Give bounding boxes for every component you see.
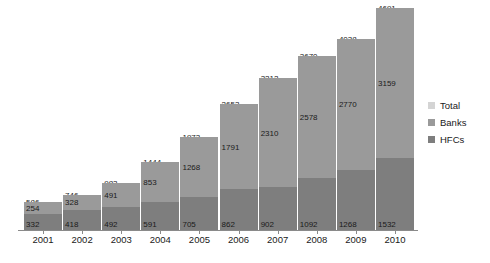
bar-value-hfcs: 862	[222, 220, 235, 229]
x-axis-tick-labels: 2001200220032004200520062007200820092010	[24, 234, 414, 245]
bar-column[interactable]: 19731268705	[180, 8, 218, 230]
bar-column[interactable]: 1444853591	[141, 8, 179, 230]
x-tick-label: 2003	[102, 234, 140, 245]
x-tick-mark	[278, 230, 279, 234]
x-tick-mark	[43, 230, 44, 234]
legend-item[interactable]: HFCs	[428, 131, 466, 148]
bar-segment-hfcs: 1268	[337, 170, 375, 230]
bar-segment-banks: 1268	[180, 137, 218, 197]
bar-segment-banks: 2578	[298, 56, 336, 178]
bar-value-hfcs: 902	[261, 220, 274, 229]
x-tick-mark	[82, 230, 83, 234]
bar-value-hfcs: 705	[182, 220, 195, 229]
x-tick-mark	[395, 230, 396, 234]
legend-label: Total	[440, 100, 460, 111]
bar-value-banks: 1268	[182, 162, 200, 171]
x-tick-label: 2006	[220, 234, 258, 245]
chart-page: 5862543327463284189834914921444853591197…	[0, 0, 490, 263]
x-tick-mark	[121, 230, 122, 234]
bar-segment-hfcs: 492	[102, 207, 140, 230]
legend-label: HFCs	[440, 134, 464, 145]
bar-value-hfcs: 332	[26, 220, 39, 229]
bar-value-banks: 3159	[378, 78, 396, 87]
legend-swatch-icon	[428, 102, 435, 109]
x-tick-label: 2002	[63, 234, 101, 245]
x-tick-mark	[199, 230, 200, 234]
bar-value-banks: 491	[104, 191, 117, 200]
bar-segment-banks: 328	[63, 195, 101, 211]
bar-segment-hfcs: 1092	[298, 178, 336, 230]
bar-segment-banks: 3159	[376, 8, 414, 157]
bar-column[interactable]: 403827701268	[337, 8, 375, 230]
bar-value-banks: 2578	[300, 113, 318, 122]
bar-segment-hfcs: 705	[180, 197, 218, 230]
bar-segment-hfcs: 418	[63, 210, 101, 230]
x-tick-label: 2007	[259, 234, 297, 245]
x-tick-mark	[317, 230, 318, 234]
legend-item[interactable]: Banks	[428, 114, 466, 131]
bar-column[interactable]: 469131591532	[376, 8, 414, 230]
x-tick-mark	[160, 230, 161, 234]
bar-value-banks: 328	[65, 198, 78, 207]
bar-segment-hfcs: 1532	[376, 158, 414, 231]
bar-column[interactable]: 32122310902	[259, 8, 297, 230]
bar-column[interactable]: 26531791862	[220, 8, 258, 230]
bar-column[interactable]: 983491492	[102, 8, 140, 230]
bar-value-banks: 254	[26, 204, 39, 213]
bar-segment-hfcs: 862	[220, 189, 258, 230]
bar-value-hfcs: 418	[65, 220, 78, 229]
x-tick-label: 2009	[337, 234, 375, 245]
x-tick-label: 2005	[180, 234, 218, 245]
legend-item[interactable]: Total	[428, 97, 466, 114]
bar-segment-banks: 2310	[259, 78, 297, 187]
bar-segment-banks: 853	[141, 162, 179, 202]
bar-value-banks: 2770	[339, 100, 357, 109]
bar-column[interactable]: 586254332	[24, 8, 62, 230]
x-tick-mark	[356, 230, 357, 234]
bar-column[interactable]: 367025781092	[298, 8, 336, 230]
bar-value-hfcs: 591	[143, 220, 156, 229]
bar-column[interactable]: 746328418	[63, 8, 101, 230]
bar-segment-banks: 491	[102, 183, 140, 206]
plot-area: 5862543327463284189834914921444853591197…	[24, 8, 414, 230]
bar-group: 5862543327463284189834914921444853591197…	[24, 8, 414, 230]
bar-value-banks: 853	[143, 177, 156, 186]
x-tick-label: 2004	[141, 234, 179, 245]
x-tick-label: 2001	[24, 234, 62, 245]
legend-swatch-icon	[428, 119, 435, 126]
bar-segment-hfcs: 902	[259, 187, 297, 230]
legend-label: Banks	[440, 117, 466, 128]
legend-swatch-icon	[428, 136, 435, 143]
bar-value-hfcs: 1092	[300, 220, 318, 229]
x-tick-label: 2008	[298, 234, 336, 245]
x-axis-line	[18, 230, 418, 231]
chart-legend: TotalBanksHFCs	[428, 97, 466, 148]
bar-segment-banks: 2770	[337, 39, 375, 170]
x-tick-label: 2010	[376, 234, 414, 245]
x-tick-mark	[239, 230, 240, 234]
bar-value-hfcs: 1268	[339, 220, 357, 229]
bar-value-hfcs: 492	[104, 220, 117, 229]
bar-value-banks: 1791	[222, 142, 240, 151]
bar-segment-banks: 254	[24, 202, 62, 214]
bar-value-banks: 2310	[261, 128, 279, 137]
bar-value-hfcs: 1532	[378, 220, 396, 229]
bar-segment-banks: 1791	[220, 104, 258, 189]
bar-segment-hfcs: 591	[141, 202, 179, 230]
bar-segment-hfcs: 332	[24, 214, 62, 230]
